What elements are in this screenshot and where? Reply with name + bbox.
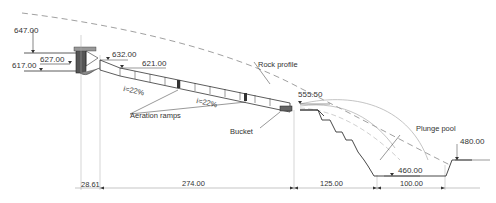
label-slope-upper: i=22% bbox=[123, 84, 146, 97]
elevation-downstream: 480.00 bbox=[460, 137, 485, 146]
downstream-terrain bbox=[300, 110, 472, 176]
spillway-diagram: 647.00 627.00 617.00 632.00 621.00 Rock … bbox=[0, 0, 496, 203]
label-bucket: Bucket bbox=[230, 127, 254, 136]
label-plunge-pool: Plunge pool bbox=[416, 124, 456, 133]
dimension-28-61: 28.61 bbox=[81, 180, 100, 189]
dimension-100: 100.00 bbox=[400, 179, 423, 188]
label-rock-profile: Rock profile bbox=[258, 60, 298, 69]
elevation-crest-top: 647.00 bbox=[14, 26, 39, 35]
dimension-125: 125.00 bbox=[320, 179, 343, 188]
elevation-chute-upper: 621.00 bbox=[142, 59, 167, 68]
jet-trajectory-lower bbox=[300, 105, 395, 148]
jet-trajectory-upper bbox=[300, 100, 428, 160]
label-aeration-ramps: Aeration ramps bbox=[130, 111, 181, 120]
elevation-bucket: 555.50 bbox=[298, 90, 323, 99]
label-slope-lower: i=22% bbox=[196, 96, 219, 109]
jet-trajectory-dashed bbox=[300, 108, 400, 160]
rock-profile-line bbox=[22, 13, 450, 165]
elevation-pool-bottom: 460.00 bbox=[398, 166, 423, 175]
elevation-sill: 617.00 bbox=[12, 61, 37, 70]
bucket-shape bbox=[280, 106, 292, 111]
dimension-274: 274.00 bbox=[182, 179, 205, 188]
elevation-reservoir: 627.00 bbox=[40, 55, 65, 64]
elevation-chute-start: 632.00 bbox=[112, 50, 137, 59]
